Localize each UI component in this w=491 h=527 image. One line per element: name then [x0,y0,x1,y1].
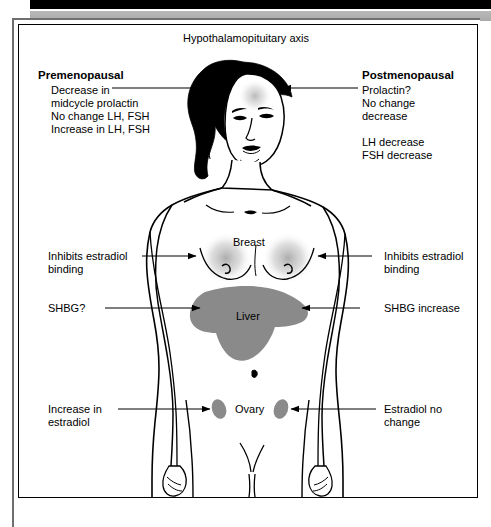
label-breast: Breast [233,236,265,249]
label-liver: Liver [236,310,260,323]
postmenopausal-line-5: FSH decrease [362,149,432,162]
annotation-ovary-left-line2: estradiol [48,416,90,429]
annotation-ovary-right-line2: change [384,416,420,429]
top-black-bar [30,0,491,9]
label-ovary: Ovary [235,403,264,416]
premenopausal-line-4: Increase in LH, FSH [51,123,150,136]
postmenopausal-line-4: LH decrease [362,136,424,149]
postmenopausal-heading: Postmenopausal [362,69,454,82]
annotation-breast-left-line1: Inhibits estradiol [48,250,128,263]
postmenopausal-line-1: Prolactin? [362,84,411,97]
annotation-breast-right-line2: binding [384,263,419,276]
annotation-breast-right-line1: Inhibits estradiol [384,250,464,263]
annotation-shbg-right: SHBG increase [384,302,460,315]
postmenopausal-line-2: No change [362,97,415,110]
premenopausal-line-1: Decrease in [51,84,110,97]
annotation-ovary-left-line1: Increase in [48,403,102,416]
annotation-ovary-right-line1: Estradiol no [384,403,442,416]
annotation-breast-left-line2: binding [48,263,83,276]
postmenopausal-line-3: decrease [362,110,407,123]
premenopausal-heading: Premenopausal [38,69,124,82]
premenopausal-line-3: No change LH, FSH [51,110,149,123]
annotation-shbg-left: SHBG? [48,302,85,315]
figure-title: Hypothalamopituitary axis [146,32,346,45]
premenopausal-line-2: midcycle prolactin [51,97,138,110]
